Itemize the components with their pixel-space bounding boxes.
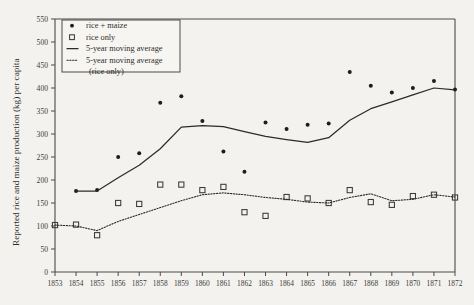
data-point-rice-maize: [264, 121, 268, 125]
data-point-rice-maize: [432, 79, 436, 83]
data-point-rice-only: [95, 233, 100, 238]
x-axis-ticks: 1853185418551856185718581859186018611862…: [48, 272, 463, 288]
y-tick-label: 150: [37, 199, 49, 208]
x-tick-label: 1856: [111, 279, 126, 288]
data-point-rice-maize: [116, 155, 120, 159]
y-tick-label: 50: [40, 245, 48, 254]
series-group: [52, 70, 457, 238]
data-point-rice-only: [389, 202, 394, 207]
data-point-rice-only: [263, 213, 268, 218]
x-tick-label: 1860: [195, 279, 210, 288]
y-tick-label: 500: [37, 38, 49, 47]
series-line-5-year-moving-average: [76, 88, 455, 191]
data-point-rice-maize: [200, 119, 204, 123]
x-tick-label: 1859: [174, 279, 189, 288]
data-point-rice-maize: [285, 127, 289, 131]
x-tick-label: 1870: [406, 279, 421, 288]
data-point-rice-maize: [306, 123, 310, 127]
data-point-rice-only: [347, 188, 352, 193]
y-tick-label: 200: [37, 176, 49, 185]
legend-label-3: 5-year moving average: [86, 56, 163, 65]
data-point-rice-maize: [369, 84, 373, 88]
data-point-rice-maize: [411, 86, 415, 90]
x-tick-label: 1861: [216, 279, 231, 288]
data-point-rice-maize: [158, 101, 162, 105]
x-tick-label: 1867: [342, 279, 357, 288]
data-point-rice-maize: [137, 151, 141, 155]
y-axis-ticks: 050100150200250300350400450500550: [37, 15, 55, 277]
chart-page: 050100150200250300350400450500550 185318…: [0, 0, 474, 305]
x-tick-label: 1872: [448, 279, 463, 288]
data-point-rice-maize: [221, 149, 225, 153]
data-point-rice-only: [221, 184, 226, 189]
x-tick-label: 1869: [384, 279, 399, 288]
y-tick-label: 250: [37, 153, 49, 162]
x-tick-label: 1857: [132, 279, 147, 288]
data-point-rice-only: [137, 201, 142, 206]
y-tick-label: 0: [44, 268, 48, 277]
data-point-rice-maize: [179, 94, 183, 98]
data-point-rice-maize: [327, 121, 331, 125]
data-point-rice-only: [200, 188, 205, 193]
y-axis-title: Reported rice and maize production (kg) …: [11, 59, 21, 247]
x-tick-label: 1853: [48, 279, 63, 288]
data-point-rice-only: [179, 182, 184, 187]
data-point-rice-only: [158, 182, 163, 187]
series-line-5-year-moving-average-rice-only: [55, 193, 455, 231]
data-point-rice-maize: [348, 70, 352, 74]
y-tick-label: 300: [37, 130, 49, 139]
legend-marker-filled-circle: [70, 24, 74, 28]
y-tick-label: 350: [37, 107, 49, 116]
production-scatter-chart: 050100150200250300350400450500550 185318…: [0, 0, 474, 305]
data-point-rice-maize: [390, 91, 394, 95]
x-tick-label: 1871: [427, 279, 442, 288]
chart-legend: rice + maizerice only5-year moving avera…: [62, 20, 180, 76]
x-tick-label: 1868: [363, 279, 378, 288]
legend-label-1: rice only: [86, 33, 116, 42]
x-tick-label: 1863: [258, 279, 273, 288]
data-point-rice-only: [368, 199, 373, 204]
x-tick-label: 1862: [237, 279, 252, 288]
x-tick-label: 1858: [153, 279, 168, 288]
legend-label-0: rice + maize: [86, 21, 127, 30]
x-tick-label: 1865: [300, 279, 315, 288]
data-point-rice-only: [242, 210, 247, 215]
data-point-rice-only: [305, 196, 310, 201]
legend-label-3-cont: (rice only): [89, 67, 124, 76]
data-point-rice-maize: [242, 170, 246, 174]
y-tick-label: 400: [37, 84, 49, 93]
data-point-rice-only: [410, 194, 415, 199]
y-tick-label: 550: [37, 15, 49, 24]
y-tick-label: 450: [37, 61, 49, 70]
x-tick-label: 1855: [90, 279, 105, 288]
y-tick-label: 100: [37, 222, 49, 231]
legend-label-2: 5-year moving average: [86, 44, 163, 53]
x-tick-label: 1854: [69, 279, 84, 288]
data-point-rice-only: [116, 200, 121, 205]
x-tick-label: 1864: [279, 279, 294, 288]
x-tick-label: 1866: [321, 279, 336, 288]
